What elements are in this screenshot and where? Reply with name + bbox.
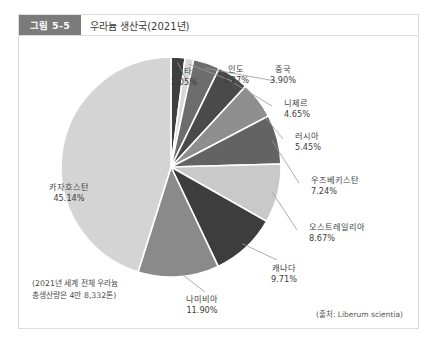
pie-label-니제르: 니제르 4.65%: [284, 98, 310, 120]
figure-note-line-2: 총생산량은 4만 8,332톤): [32, 290, 118, 302]
pie-label-name: 오스트레일리아: [309, 222, 365, 233]
pie-label-name: 우즈베키스탄: [311, 175, 359, 186]
pie-label-나미비아: 나미비아 11.90%: [186, 294, 218, 316]
pie-leader-line: [242, 244, 277, 260]
pie-label-name: 니제르: [284, 98, 310, 109]
pie-label-name: 러시아: [295, 131, 321, 142]
pie-label-value: 1.27%: [223, 75, 249, 86]
figure-title: 우라늄 생산국(2021년): [90, 15, 189, 35]
pie-label-name: 중국: [270, 64, 296, 75]
pie-leader-line: [272, 192, 297, 230]
pie-label-name: 카자흐스탄: [49, 182, 89, 193]
pie-label-value: 4.65%: [284, 109, 310, 120]
pie-label-value: 5.45%: [295, 142, 321, 153]
pie-label-value: 7.24%: [311, 186, 359, 197]
pie-label-기타: 기타 2.05%: [171, 66, 197, 88]
pie-label-러시아: 러시아 5.45%: [295, 131, 321, 153]
figure-header: 그림 5-5 우라늄 생산국(2021년): [19, 15, 418, 36]
pie-label-value: 3.90%: [270, 75, 296, 86]
figure-note: (2021년 세계 전체 우라늄 총생산량은 4만 8,332톤): [32, 278, 118, 301]
pie-label-value: 2.05%: [171, 77, 197, 88]
pie-label-캐나다: 캐나다 9.71%: [271, 263, 297, 285]
figure-container: 그림 5-5 우라늄 생산국(2021년) 기타 2.05% 인도 1.27% …: [18, 14, 419, 329]
pie-label-우즈베키스탄: 우즈베키스탄 7.24%: [311, 175, 359, 197]
figure-number-badge: 그림 5-5: [19, 15, 81, 35]
pie-slice-group: [61, 57, 281, 277]
pie-label-name: 인도: [223, 64, 249, 75]
pie-chart-area: 기타 2.05% 인도 1.27% 중국 3.90% 니제르 4.65% 러시아…: [19, 36, 418, 329]
pie-label-value: 45.14%: [49, 193, 89, 204]
pie-label-value: 11.90%: [186, 305, 218, 316]
pie-label-name: 나미비아: [186, 294, 218, 305]
pie-label-name: 기타: [171, 66, 197, 77]
pie-label-인도: 인도 1.27%: [223, 64, 249, 86]
figure-source: (출처: Liberum scientia): [316, 308, 403, 319]
figure-note-line-1: (2021년 세계 전체 우라늄: [32, 278, 118, 290]
pie-label-name: 캐나다: [271, 263, 297, 274]
pie-label-카자흐스탄: 카자흐스탄 45.14%: [49, 182, 89, 204]
pie-label-value: 9.71%: [271, 274, 297, 285]
pie-label-중국: 중국 3.90%: [270, 64, 296, 86]
pie-label-value: 8.67%: [309, 233, 365, 244]
pie-label-오스트레일리아: 오스트레일리아 8.67%: [309, 222, 365, 244]
